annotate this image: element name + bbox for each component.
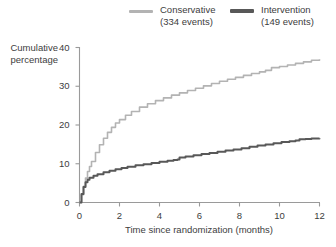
x-axis-tick-label: 8 bbox=[230, 210, 250, 221]
y-axis-tick-label: 40 bbox=[50, 42, 70, 53]
x-axis-tick-label: 0 bbox=[70, 210, 90, 221]
cumulative-percentage-chart: Conservative (334 events) Intervention (… bbox=[0, 0, 336, 247]
x-axis-tick-label: 2 bbox=[110, 210, 130, 221]
y-axis-tick-label: 10 bbox=[50, 158, 70, 169]
y-axis-tick-label: 0 bbox=[50, 197, 70, 208]
y-axis-tick-label: 30 bbox=[50, 80, 70, 91]
series-line-intervention bbox=[80, 138, 320, 202]
x-axis-tick-label: 10 bbox=[270, 210, 290, 221]
plot-area: 010203040024681012 bbox=[0, 0, 336, 247]
series-line-conservative bbox=[80, 59, 320, 202]
x-axis-tick-label: 4 bbox=[150, 210, 170, 221]
x-axis-tick-label: 12 bbox=[310, 210, 330, 221]
x-axis-tick-label: 6 bbox=[190, 210, 210, 221]
x-axis-title: Time since randomization (months) bbox=[79, 224, 319, 235]
y-axis-tick-label: 20 bbox=[50, 119, 70, 130]
